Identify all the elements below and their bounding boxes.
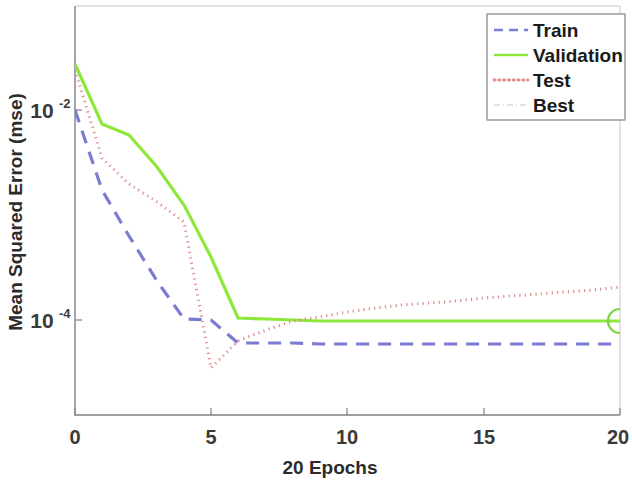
x-tick-label-1: 5 (205, 426, 216, 448)
y-tick-marks (75, 110, 82, 320)
legend[interactable]: Train Validation Test Best (487, 14, 625, 120)
legend-label-best: Best (533, 95, 575, 116)
performance-plot: 0 5 10 15 20 10 -2 10 -4 Mean Squared Er… (0, 0, 632, 483)
y-tick-labels: 10 -2 10 -4 (30, 96, 71, 332)
series-line-train (75, 110, 620, 344)
legend-label-test: Test (533, 70, 571, 91)
y-tick-label-0-base: 10 (30, 99, 53, 122)
y-tick-label-1-exponent: -4 (59, 306, 71, 321)
training-performance-figure: 0 5 10 15 20 10 -2 10 -4 Mean Squared Er… (0, 0, 632, 483)
x-axis-title: 20 Epochs (282, 457, 377, 478)
legend-label-validation: Validation (533, 45, 623, 66)
y-tick-label-1-base: 10 (30, 309, 53, 332)
x-tick-labels: 0 5 10 15 20 (69, 426, 629, 448)
x-tick-label-2: 10 (336, 426, 358, 448)
x-tick-label-4: 20 (607, 426, 629, 448)
legend-label-train: Train (533, 20, 578, 41)
y-axis-title: Mean Squared Error (mse) (5, 93, 26, 331)
x-tick-label-3: 15 (473, 426, 495, 448)
x-tick-label-0: 0 (69, 426, 80, 448)
y-tick-label-0-exponent: -2 (59, 96, 71, 111)
x-tick-marks (75, 408, 620, 415)
